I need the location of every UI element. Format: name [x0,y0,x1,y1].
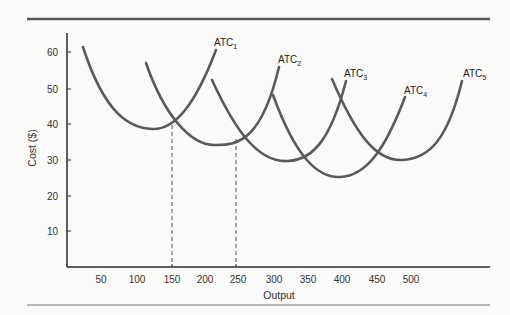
y-tick-30: 30 [47,155,59,166]
atc1-curve [83,47,216,129]
y-tick-20: 20 [47,191,59,202]
y-tick-50: 50 [47,84,59,95]
x-tick-200: 200 [197,274,214,285]
atc2-curve [146,63,279,145]
atc-curves [83,47,462,177]
x-tick-250: 250 [230,274,247,285]
x-tick-350: 350 [300,274,317,285]
y-tick-labels: 60 50 40 30 20 10 [47,47,59,237]
x-tick-400: 400 [334,274,351,285]
x-tick-labels: 50 100 150 200 250 300 350 400 450 500 [95,274,419,285]
x-tick-450: 450 [369,274,386,285]
y-tick-60: 60 [47,47,59,58]
x-tick-50: 50 [95,274,107,285]
y-tick-10: 10 [47,226,59,237]
atc3-curve [212,80,346,161]
cost-chart: 60 50 40 30 20 10 Cost ($) 50 100 150 20… [0,0,510,315]
atc5-label: ATC5 [463,68,486,81]
x-axis-title: Output [263,289,295,301]
atc1-label: ATC1 [214,37,237,50]
y-tick-40: 40 [47,119,59,130]
atc4-label: ATC4 [404,85,427,98]
x-tick-150: 150 [164,274,181,285]
x-tick-100: 100 [129,274,146,285]
atc3-label: ATC3 [344,68,367,81]
atc2-label: ATC2 [278,54,301,67]
y-axis-title: Cost ($) [26,129,38,166]
x-tick-300: 300 [266,274,283,285]
x-tick-500: 500 [403,274,420,285]
